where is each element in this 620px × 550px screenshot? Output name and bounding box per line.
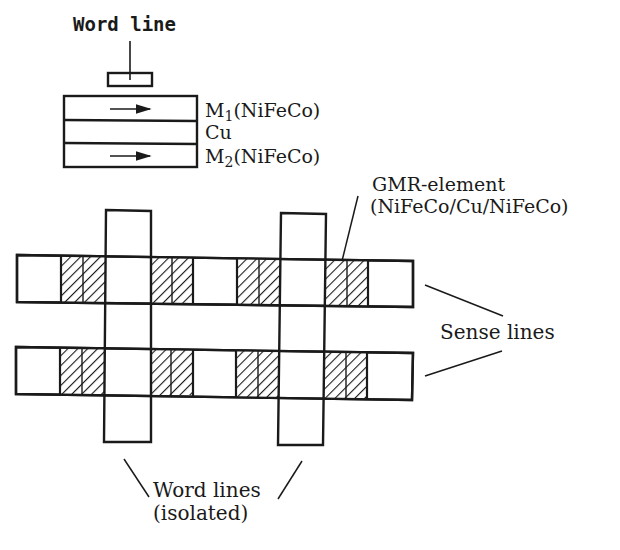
sense-line-1 [17,255,413,307]
sense-lines-label: Sense lines [440,320,555,344]
sense-line-leader-bottom [425,351,502,376]
word-line-2 [278,213,326,445]
word-lines-label-line2: (isolated) [153,501,248,525]
word-line-label: Word line [73,13,176,35]
gmr-memory-diagram: Word line M1(NiFeCo) Cu M2(NiFeCo) [0,0,620,550]
layer-divider [64,143,197,144]
sense-line-2 [16,347,413,400]
word-line-leader-left [124,459,149,497]
gmr-element-leader [342,196,358,261]
layer-cu-label: Cu [205,121,232,143]
layer-m2-label: M2(NiFeCo) [205,145,320,170]
word-line-1 [104,210,151,442]
memory-array: GMR-element (NiFeCo/Cu/NiFeCo) Sense lin… [16,173,569,525]
word-lines-label-line1: Word lines [153,478,261,502]
layer-divider [64,120,197,121]
gmr-element-label-line2: (NiFeCo/Cu/NiFeCo) [370,195,569,217]
sense-line-leader-top [425,285,503,316]
layer-stack: Word line M1(NiFeCo) Cu M2(NiFeCo) [64,13,320,170]
word-line-leader-right [278,461,302,499]
gmr-element-label-line1: GMR-element [372,173,505,195]
